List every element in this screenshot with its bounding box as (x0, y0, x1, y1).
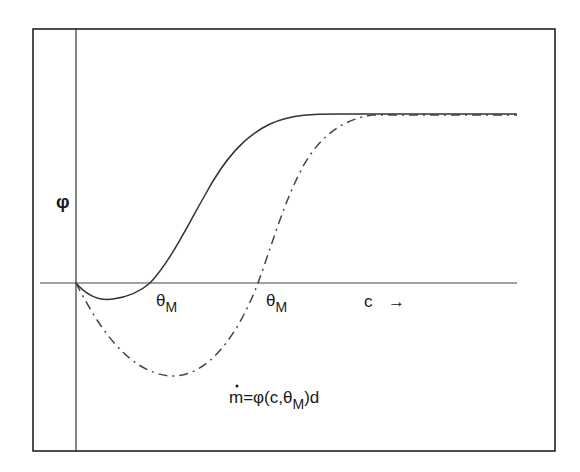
solid-curve (76, 114, 517, 299)
figure-frame (33, 29, 555, 451)
formula: m=φ(c,θM)d (229, 388, 319, 412)
theta-m-label-dashdot: θM (266, 291, 287, 315)
bcm-diagram: φ θM θM c → m=φ(c,θM)d (0, 0, 580, 472)
theta-m-label-solid: θM (156, 291, 177, 315)
x-axis-label: c (364, 292, 373, 311)
dash-dot-curve (76, 115, 517, 376)
y-axis-label: φ (56, 191, 70, 212)
x-axis-arrow: → (388, 292, 405, 311)
